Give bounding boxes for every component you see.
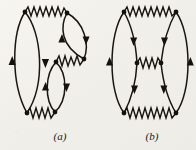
panel-a-label: (a)	[54, 130, 67, 143]
photon-middle-short-a	[56, 56, 84, 66]
arrow-down-upper-right-loop-right	[83, 37, 90, 46]
middle-loop-left-branch	[47, 62, 56, 112]
vertex-a-upper-right-lower	[82, 57, 87, 62]
outer-left-arc	[112, 12, 124, 113]
arrow-down-large-loop-right	[42, 59, 49, 68]
panel-b: (b)	[106, 7, 194, 143]
vertex-b-top-left	[122, 10, 127, 15]
outer-right-arc	[176, 12, 188, 113]
arrow-down-inner-left-upper	[130, 38, 137, 47]
photon-top-b	[124, 7, 176, 16]
arrow-down-inner-right-upper	[161, 38, 168, 47]
vertex-a-bottom-left	[25, 111, 30, 116]
photon-bottom-a	[27, 108, 55, 118]
vertex-b-bottom-right	[174, 111, 179, 116]
photon-top-a	[25, 7, 67, 16]
vertex-a-bottom-right	[53, 110, 58, 115]
upper-right-loop-right-branch	[67, 13, 86, 59]
diagram-canvas: (a)	[0, 0, 196, 150]
photon-bottom-b	[124, 108, 176, 118]
panel-b-label: (b)	[146, 130, 159, 143]
panel-a: (a)	[9, 7, 90, 143]
vertex-b-mid-left	[135, 61, 140, 66]
vertex-a-mid-left	[54, 60, 59, 65]
large-left-loop-left-branch	[15, 12, 27, 113]
vertex-a-top-left	[23, 10, 28, 15]
vertex-b-top-right	[174, 10, 179, 15]
large-left-loop-right-branch	[25, 12, 40, 113]
vertex-a-top-right	[65, 11, 70, 16]
photon-middle-b	[137, 58, 161, 68]
vertex-b-bottom-left	[122, 111, 127, 116]
feynman-figure: (a)	[0, 0, 196, 150]
upper-right-loop-left-branch	[63, 13, 84, 59]
vertex-b-mid-right	[159, 61, 164, 66]
middle-loop-right-branch	[55, 62, 65, 112]
